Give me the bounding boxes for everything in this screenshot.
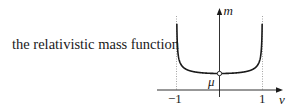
- tick-label-one: 1: [259, 91, 266, 106]
- x-axis-label: v: [279, 92, 285, 107]
- y-axis-arrow-icon: [217, 8, 222, 15]
- mu-label: μ: [207, 74, 215, 89]
- tick-label-neg-one: −1: [168, 91, 182, 106]
- mass-function-plot: m v −1 1 μ: [0, 0, 298, 108]
- minimum-point-marker: [217, 71, 221, 75]
- y-axis-label: m: [224, 3, 233, 18]
